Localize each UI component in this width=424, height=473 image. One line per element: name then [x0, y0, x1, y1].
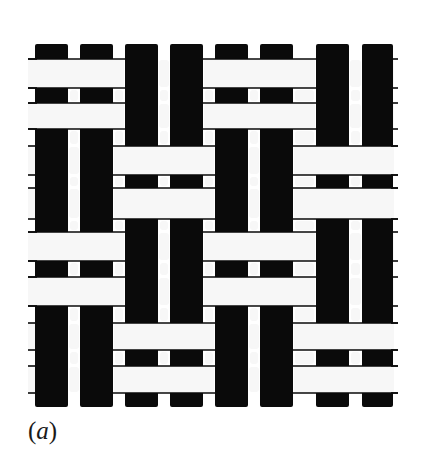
gap-square: [205, 221, 213, 230]
weft-over-band: [204, 103, 315, 129]
weft-edge-right: [393, 103, 394, 129]
gap-square: [250, 221, 258, 230]
gap-square: [250, 90, 258, 101]
gap-square: [250, 308, 258, 321]
weft-gap-segment: [249, 147, 259, 174]
panel-label-letter: a: [36, 417, 49, 444]
tab-gap: [158, 43, 170, 60]
weft-edge-right: [393, 277, 394, 306]
warp-thread: [80, 44, 113, 407]
tab-gap: [68, 392, 80, 408]
gap-square: [160, 90, 168, 101]
gap-square: [351, 221, 360, 230]
warp-thread: [316, 44, 349, 407]
gap-square: [160, 352, 168, 364]
gap-square: [205, 131, 213, 144]
gap-square: [205, 263, 213, 275]
weft-gap-segment: [350, 278, 361, 305]
gap-square: [115, 177, 123, 186]
gap-square: [160, 221, 168, 230]
weft-gap-segment: [249, 367, 259, 392]
gap-square: [70, 221, 78, 230]
gap-square: [160, 177, 168, 186]
weft-gap-segment: [249, 324, 259, 349]
gap-square: [115, 308, 123, 321]
weft-gap-segment: [249, 189, 259, 218]
weft-over-band: [28, 59, 124, 88]
weft-edge-right: [393, 59, 394, 88]
gap-square: [160, 131, 168, 144]
gap-square: [205, 90, 213, 101]
weft-gap-segment: [69, 367, 79, 392]
tab-gap: [248, 392, 260, 408]
weft-gap-segment: [159, 278, 169, 305]
warp-thread: [362, 44, 393, 407]
weft-over-band: [204, 232, 315, 261]
gap-square: [295, 263, 314, 275]
gap-square: [250, 352, 258, 364]
warp-thread: [170, 44, 203, 407]
weft-over-band: [294, 188, 394, 219]
weft-over-band: [204, 59, 315, 88]
gap-square: [115, 131, 123, 144]
gap-square: [295, 352, 314, 364]
weft-gap-segment: [350, 104, 361, 128]
weft-over-band: [294, 366, 394, 393]
tab-gap: [203, 392, 215, 408]
weft-over-band: [204, 277, 315, 306]
gap-square: [351, 131, 360, 144]
weft-edge-left: [28, 188, 35, 219]
weft-over-band: [294, 323, 394, 350]
weft-gap-segment: [69, 324, 79, 349]
gap-square: [115, 221, 123, 230]
tab-gap: [293, 43, 316, 60]
panel-label-close: ): [49, 417, 57, 444]
gap-square: [70, 308, 78, 321]
gap-square: [295, 177, 314, 186]
weft-over-band: [28, 232, 124, 261]
gap-square: [295, 90, 314, 101]
gap-square: [250, 263, 258, 275]
weft-over-band: [28, 277, 124, 306]
gap-square: [115, 90, 123, 101]
warp-thread: [215, 44, 248, 407]
weft-edge-left: [28, 366, 35, 393]
weft-gap-segment: [69, 189, 79, 218]
warp-thread: [260, 44, 293, 407]
gap-square: [205, 308, 213, 321]
weft-gap-segment: [159, 104, 169, 128]
weft-gap-segment: [159, 233, 169, 260]
warp-thread: [35, 44, 68, 407]
basket-weave-figure: (a): [0, 0, 424, 473]
tab-gap: [113, 43, 125, 60]
gap-square: [351, 352, 360, 364]
gap-square: [295, 131, 314, 144]
gap-square: [70, 177, 78, 186]
weft-over-band: [114, 323, 214, 350]
warp-thread: [125, 44, 158, 407]
gap-square: [70, 131, 78, 144]
weft-gap-segment: [350, 233, 361, 260]
tab-gap: [158, 392, 170, 408]
gap-square: [295, 221, 314, 230]
tab-gap: [293, 392, 316, 408]
gap-square: [351, 263, 360, 275]
gap-square: [160, 263, 168, 275]
weft-edge-left: [28, 146, 35, 175]
weft-over-band: [114, 188, 214, 219]
gap-square: [250, 177, 258, 186]
weft-gap-segment: [350, 60, 361, 87]
gap-square: [351, 90, 360, 101]
weft-over-band: [114, 146, 214, 175]
gap-square: [160, 308, 168, 321]
gap-square: [70, 352, 78, 364]
tab-gap: [349, 43, 362, 60]
gap-square: [70, 263, 78, 275]
tab-gap: [248, 43, 260, 60]
tab-gap: [349, 392, 362, 408]
gap-square: [295, 308, 314, 321]
weft-edge-left: [28, 323, 35, 350]
weft-over-band: [114, 366, 214, 393]
gap-square: [205, 352, 213, 364]
weft-gap-segment: [69, 147, 79, 174]
